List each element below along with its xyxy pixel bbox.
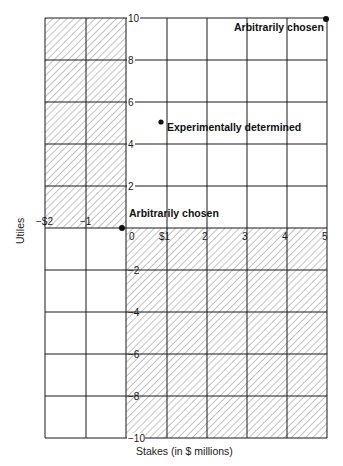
x-tick-4: 4 (282, 231, 288, 242)
utility-chart: 10 8 6 4 2 −2 −4 −6 −8 −10 −$2 −1 0 $1 2… (0, 0, 343, 466)
y-tick-neg2: −2 (128, 265, 140, 276)
x-tick-1: $1 (159, 231, 171, 242)
y-tick-neg4: −4 (128, 307, 140, 318)
y-tick-neg8: −8 (128, 391, 140, 402)
annotation-experimental: Experimentally determined (167, 121, 301, 133)
y-tick-neg6: −6 (128, 349, 140, 360)
y-axis-title: Utiles (14, 218, 26, 244)
y-tick-8: 8 (128, 55, 134, 66)
point-origin (119, 225, 125, 231)
y-tick-10: 10 (128, 13, 140, 24)
y-tick-4: 4 (128, 139, 134, 150)
x-tick-2: 2 (202, 231, 208, 242)
point-experimental (158, 119, 163, 124)
annotation-origin: Arbitrarily chosen (129, 207, 219, 219)
point-top-right (323, 16, 329, 22)
y-tick-2: 2 (128, 181, 134, 192)
annotation-top: Arbitrarily chosen (234, 21, 324, 33)
x-tick-neg2: −$2 (36, 216, 53, 227)
x-axis-title: Stakes (in $ millions) (136, 445, 233, 457)
y-tick-6: 6 (128, 97, 134, 108)
x-tick-0: 0 (129, 231, 135, 242)
x-tick-5: 5 (322, 231, 328, 242)
y-tick-neg10: −10 (128, 433, 145, 444)
x-tick-3: 3 (242, 231, 248, 242)
shaded-region-lower-right (126, 228, 327, 438)
x-tick-neg1: −1 (80, 216, 92, 227)
